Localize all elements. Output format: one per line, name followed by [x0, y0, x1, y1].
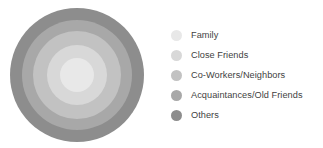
- circle-swatch-icon: [171, 30, 182, 41]
- legend-item-others: Others: [171, 105, 323, 125]
- ring-family: [60, 58, 94, 92]
- legend-item-label: Close Friends: [191, 50, 248, 61]
- legend-item-co-workers-neighbors: Co-Workers/Neighbors: [171, 65, 323, 85]
- legend-item-label: Family: [191, 30, 218, 41]
- concentric-circle-figure: [10, 8, 144, 142]
- legend: Family Close Friends Co-Workers/Neighbor…: [171, 25, 323, 125]
- circle-swatch-icon: [171, 70, 182, 81]
- social-circles-diagram: Family Close Friends Co-Workers/Neighbor…: [0, 0, 323, 148]
- legend-item-family: Family: [171, 25, 323, 45]
- circle-swatch-icon: [171, 110, 182, 121]
- legend-item-close-friends: Close Friends: [171, 45, 323, 65]
- circle-swatch-icon: [171, 90, 182, 101]
- circle-swatch-icon: [171, 50, 182, 61]
- legend-item-label: Acquaintances/Old Friends: [191, 90, 303, 101]
- legend-item-acquaintances-old-friends: Acquaintances/Old Friends: [171, 85, 323, 105]
- legend-item-label: Others: [191, 110, 219, 121]
- legend-item-label: Co-Workers/Neighbors: [191, 70, 285, 81]
